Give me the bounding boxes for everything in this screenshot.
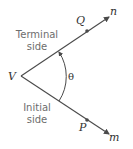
point-q-dot <box>85 29 89 33</box>
terminal-side-label-line2: side <box>27 41 48 52</box>
initial-side-label-line1: Initial <box>23 102 51 113</box>
vertex-label: V <box>8 70 17 83</box>
ray-n-label: n <box>110 5 117 18</box>
point-p-label: P <box>78 121 87 134</box>
initial-side-label-line2: side <box>27 114 48 125</box>
point-q-label: Q <box>76 14 85 27</box>
angle-diagram: V Q n P m θ Terminal side Initial side <box>0 0 133 149</box>
theta-label: θ <box>68 71 74 82</box>
angle-arc <box>59 52 66 101</box>
terminal-side-label-line1: Terminal <box>15 29 58 40</box>
ray-m-label: m <box>109 131 119 144</box>
